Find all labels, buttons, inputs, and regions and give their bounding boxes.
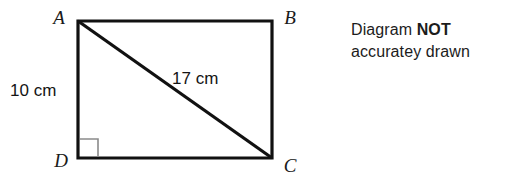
diagonal-line-ac: [78, 21, 272, 158]
vertex-label-c: C: [284, 155, 297, 176]
side-length-label-ad: 10 cm: [10, 81, 56, 100]
note-line-secondary: accuratey drawn: [351, 41, 501, 63]
note-emphasis-text: NOT: [417, 21, 451, 38]
diagram-note: Diagram NOT accuratey drawn: [351, 19, 501, 63]
vertex-label-a: A: [51, 7, 65, 28]
diagram-page: A B C D 10 cm 17 cm Diagram NOT accurate…: [0, 0, 508, 182]
right-angle-marker: [80, 139, 98, 157]
note-line-primary: Diagram NOT: [351, 19, 501, 41]
vertex-label-d: D: [53, 150, 68, 171]
note-prefix-text: Diagram: [351, 21, 417, 38]
diagonal-length-label-ac: 17 cm: [172, 69, 218, 88]
vertex-label-b: B: [284, 7, 296, 28]
